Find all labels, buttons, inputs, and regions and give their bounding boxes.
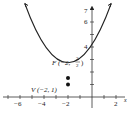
parabola-curve bbox=[25, 4, 111, 63]
x-axis-label: x bbox=[123, 97, 127, 103]
tick-label-y-7: 7 bbox=[84, 7, 88, 15]
focus-fraction-den: 2 bbox=[76, 63, 79, 68]
tick-label-x-2: 2 bbox=[114, 100, 118, 108]
focus-label-close: ) bbox=[81, 59, 84, 67]
vertex-point bbox=[66, 83, 70, 87]
focus-point bbox=[66, 76, 70, 80]
parabola-graph: −6 −4 −2 2 x 7 6 4 V (−2, 1) F (−2, 3 2 … bbox=[0, 0, 130, 122]
graph-canvas: −6 −4 −2 2 x 7 6 4 V (−2, 1) F (−2, 3 2 … bbox=[0, 0, 130, 122]
focus-label: F (−2, bbox=[51, 59, 71, 67]
tick-label-x-neg2: −2 bbox=[62, 100, 70, 108]
tick-label-y-6: 6 bbox=[84, 18, 88, 26]
vertex-label: V (−2, 1) bbox=[31, 86, 57, 94]
tick-label-x-neg6: −6 bbox=[14, 100, 22, 108]
tick-label-x-neg4: −4 bbox=[38, 100, 46, 108]
tick-label-y-4: 4 bbox=[84, 43, 88, 51]
focus-fraction-num: 3 bbox=[76, 56, 79, 61]
